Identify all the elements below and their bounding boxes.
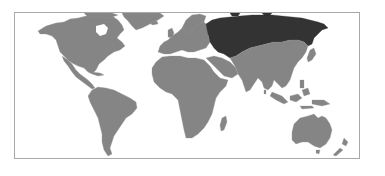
world-map [0,0,385,176]
region-south-america [88,87,137,156]
region-sri-lanka [264,90,266,94]
region-tasmania [316,150,320,154]
region-greenland [122,13,164,30]
region-new-zealand [333,138,348,156]
region-caribbean [92,72,104,76]
region-philippines [300,80,304,88]
region-europe [158,18,210,54]
region-southeast-asia [270,88,330,109]
region-australia [292,114,332,148]
region-japan [307,48,316,62]
region-north-america [38,14,125,74]
region-madagascar [220,116,227,131]
